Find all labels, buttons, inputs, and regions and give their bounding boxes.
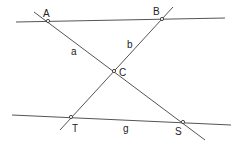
label-line-g: g [123, 123, 129, 134]
geometry-diagram: A B C T S a b g [0, 0, 242, 147]
label-point-t: T [72, 123, 78, 134]
label-point-s: S [175, 126, 182, 137]
point-c [112, 69, 115, 72]
line-b [60, 7, 173, 130]
point-b [160, 17, 163, 20]
point-t [69, 115, 72, 118]
label-point-b: B [153, 6, 160, 17]
point-s [181, 120, 184, 123]
point-a [46, 19, 49, 22]
label-line-a: a [71, 46, 77, 57]
line-g [12, 115, 231, 125]
label-point-c: C [119, 67, 126, 78]
label-line-b: b [127, 39, 133, 50]
label-point-a: A [43, 8, 50, 19]
